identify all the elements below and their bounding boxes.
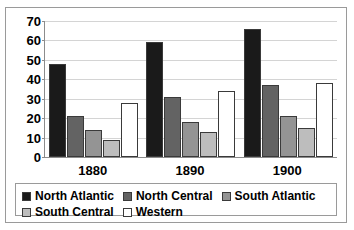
x-axis-tick-label: 1880	[44, 160, 141, 182]
bar	[164, 97, 181, 157]
bar	[316, 83, 333, 157]
chart-legend: North AtlanticNorth CentralSouth Atlanti…	[15, 183, 337, 216]
legend-swatch-icon	[123, 192, 132, 201]
y-axis-tick-label: 0	[34, 151, 41, 164]
legend-item-label: North Central	[136, 190, 213, 202]
y-axis-tick-label: 10	[27, 131, 41, 144]
y-axis-tick-label: 60	[27, 34, 41, 47]
x-axis-tick-label: 1900	[239, 160, 336, 182]
legend-item-label: South Central	[35, 206, 114, 218]
bar	[146, 42, 163, 157]
bar	[67, 116, 84, 157]
legend-item[interactable]: South Atlantic	[222, 188, 316, 204]
bar	[85, 130, 102, 157]
legend-item[interactable]: North Central	[123, 188, 213, 204]
legend-item[interactable]: North Atlantic	[22, 188, 114, 204]
x-axis-labels: 188018901900	[44, 160, 336, 182]
chart-frame: 010203040506070 188018901900 North Atlan…	[5, 7, 347, 223]
bar	[298, 128, 315, 157]
bar	[218, 91, 235, 157]
y-axis-tick-label: 20	[27, 112, 41, 125]
y-axis-tick-label: 50	[27, 53, 41, 66]
x-axis-tick-label: 1890	[141, 160, 238, 182]
legend-swatch-icon	[222, 192, 231, 201]
legend-swatch-icon	[22, 208, 31, 217]
legend-item-label: Western	[136, 206, 183, 218]
y-axis-tick-mark	[42, 157, 45, 158]
plot-area: 010203040506070	[44, 21, 337, 158]
bar	[244, 29, 261, 157]
bar-group	[45, 21, 142, 157]
bar	[262, 85, 279, 157]
legend-swatch-icon	[123, 208, 132, 217]
legend-item-label: North Atlantic	[35, 190, 114, 202]
legend-swatch-icon	[22, 192, 31, 201]
y-axis-tick-label: 70	[27, 15, 41, 28]
bar	[280, 116, 297, 157]
bar-groups	[45, 21, 337, 157]
bar	[121, 103, 138, 157]
bar	[182, 122, 199, 157]
y-axis-tick-label: 40	[27, 73, 41, 86]
legend-item[interactable]: Western	[123, 204, 183, 220]
bar	[49, 64, 66, 157]
legend-item[interactable]: South Central	[22, 204, 114, 220]
legend-item-label: South Atlantic	[235, 190, 316, 202]
bar	[103, 140, 120, 157]
bar-group	[142, 21, 239, 157]
bar	[200, 132, 217, 157]
bar-group	[240, 21, 337, 157]
y-axis-tick-label: 30	[27, 92, 41, 105]
